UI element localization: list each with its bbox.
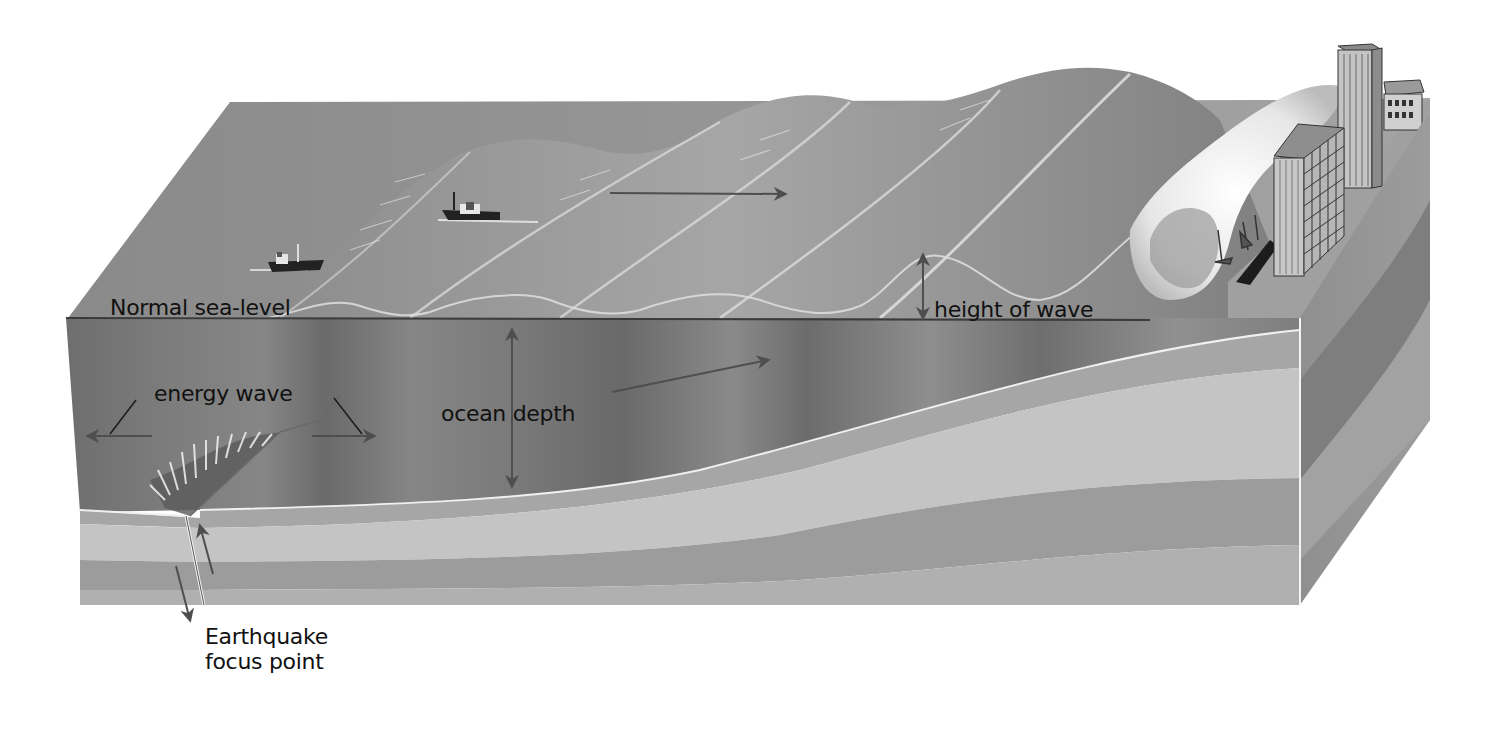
energy-wave-label: energy wave <box>154 383 292 405</box>
wave-direction-arrow <box>610 193 785 194</box>
ocean-depth-label: ocean depth <box>441 403 575 425</box>
building-low <box>1384 80 1424 130</box>
building-tall <box>1338 44 1382 188</box>
earthquake-focus-point-label: Earthquake focus point <box>205 624 328 675</box>
tsunami-diagram <box>0 0 1501 732</box>
height-of-wave-label: height of wave <box>934 299 1093 321</box>
normal-sea-level-label: Normal sea-level <box>110 297 291 319</box>
